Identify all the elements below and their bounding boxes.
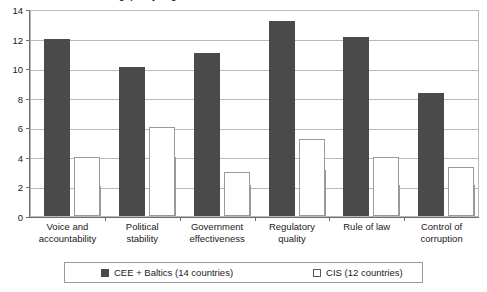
x-axis-label-0: Voice andaccountability — [30, 221, 105, 244]
bar-cee-baltics-5 — [418, 93, 444, 216]
y-tick-label: 6 — [18, 123, 23, 134]
x-axis-label-3: Regulatoryquality — [255, 221, 330, 244]
x-axis-labels: Voice andaccountabilityPoliticalstabilit… — [30, 221, 479, 251]
x-axis-label-2: Governmenteffectiveness — [180, 221, 255, 244]
x-tick-mark — [255, 217, 256, 221]
x-label-line: Government — [180, 221, 255, 233]
y-tick-label: 12 — [12, 34, 23, 45]
x-label-line: quality — [255, 233, 330, 245]
bar-cis-step-5 — [474, 185, 475, 216]
bar-cis-2 — [224, 172, 250, 216]
x-label-line: corruption — [404, 233, 479, 245]
x-tick-mark — [404, 217, 405, 221]
x-axis-label-5: Control ofcorruption — [404, 221, 479, 244]
bar-cis-1 — [149, 127, 175, 216]
x-tick-mark — [180, 217, 181, 221]
x-label-line: Political — [105, 221, 180, 233]
y-axis: 02468101214 — [0, 10, 30, 217]
page-title: Chart 3. Indicators showing quality of g… — [4, 0, 222, 1]
gridline — [31, 40, 478, 41]
bar-cee-baltics-2 — [194, 53, 220, 216]
bar-cis-0 — [74, 157, 100, 216]
x-label-line: Control of — [404, 221, 479, 233]
x-label-line: Voice and — [30, 221, 105, 233]
legend-entry-0: CEE + Baltics (14 countries) — [101, 267, 233, 278]
bar-cis-5 — [448, 167, 474, 216]
x-label-line: Rule of law — [329, 221, 404, 233]
y-tick-label: 8 — [18, 93, 23, 104]
bar-cis-step-1 — [175, 157, 176, 216]
x-axis-label-4: Rule of law — [329, 221, 404, 233]
y-tick-label: 0 — [18, 212, 23, 223]
legend-entry-1: CIS (12 countries) — [313, 267, 403, 278]
bar-cis-step-4 — [399, 185, 400, 216]
x-tick-mark — [105, 217, 106, 221]
y-tick-label: 2 — [18, 182, 23, 193]
bar-cee-baltics-1 — [119, 67, 145, 216]
bar-cis-3 — [299, 139, 325, 216]
x-label-line: effectiveness — [180, 233, 255, 245]
legend-label: CEE + Baltics (14 countries) — [114, 267, 233, 278]
gridline — [31, 129, 478, 130]
y-tick-label: 14 — [12, 5, 23, 16]
legend-swatch-light — [313, 269, 321, 277]
bar-cis-step-3 — [325, 170, 326, 216]
bar-cee-baltics-3 — [269, 21, 295, 216]
y-tick-label: 4 — [18, 152, 23, 163]
y-tick-label: 10 — [12, 64, 23, 75]
bar-cee-baltics-0 — [44, 39, 70, 216]
gridline — [31, 99, 478, 100]
x-axis-label-1: Politicalstability — [105, 221, 180, 244]
bar-cis-step-2 — [250, 185, 251, 216]
bar-cis-step-0 — [100, 186, 101, 216]
bar-cis-4 — [373, 157, 399, 216]
x-label-line: Regulatory — [255, 221, 330, 233]
plot-area — [30, 10, 479, 217]
legend-label: CIS (12 countries) — [326, 267, 403, 278]
x-label-line: accountability — [30, 233, 105, 245]
chart-legend: CEE + Baltics (14 countries)CIS (12 coun… — [64, 262, 423, 283]
x-tick-mark — [329, 217, 330, 221]
gridline — [31, 70, 478, 71]
x-label-line: stability — [105, 233, 180, 245]
bar-cee-baltics-4 — [343, 37, 369, 216]
legend-swatch-dark — [101, 269, 109, 277]
